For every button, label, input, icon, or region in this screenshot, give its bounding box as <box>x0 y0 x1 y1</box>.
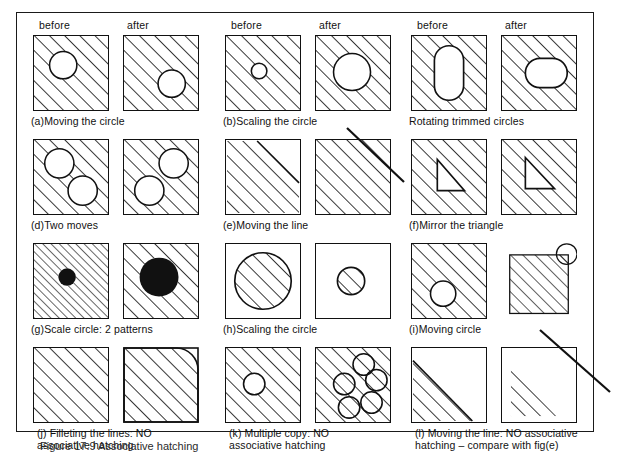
panel-column-0: before after (a)Movin <box>23 13 215 431</box>
panel-e: (e)Moving the line <box>215 139 407 215</box>
panel-column-1: before after (b)Scali <box>215 13 407 431</box>
panel-g-label: (g)Scale circle: 2 patterns <box>31 323 153 335</box>
panel-f-after <box>501 139 577 215</box>
panel-k-after <box>315 347 391 423</box>
header-before: before <box>39 19 70 31</box>
panel-b-label: (b)Scaling the circle <box>223 115 317 127</box>
panel-l-after <box>501 347 577 423</box>
panel-c: Rotating trimmed circles <box>401 35 593 111</box>
panel-c-label: Rotating trimmed circles <box>409 115 524 127</box>
panel-i: (i)Moving circle <box>401 243 593 319</box>
panel-d-after <box>123 139 199 215</box>
panel-k-before <box>225 347 301 423</box>
panel-e-label: (e)Moving the line <box>223 219 308 231</box>
panel-b-after <box>315 35 391 111</box>
figure-plate: before after (a)Movin <box>16 12 594 432</box>
panel-h-after <box>315 243 391 319</box>
panel-b: (b)Scaling the circle <box>215 35 407 111</box>
header-before: before <box>417 19 448 31</box>
panel-column-2: before after <box>401 13 593 431</box>
panel-j: (j) Filleting the lines: NO associative … <box>23 347 215 423</box>
panel-a-before <box>33 35 109 111</box>
panel-g: (g)Scale circle: 2 patterns <box>23 243 215 319</box>
panel-f: (f)Mirror the triangle <box>401 139 593 215</box>
column-headers-2: before after <box>401 19 593 35</box>
panel-a-after <box>123 35 199 111</box>
panel-g-before <box>33 243 109 319</box>
panel-h: (h)Scaling the circle <box>215 243 407 319</box>
panel-d-label: (d)Two moves <box>31 219 98 231</box>
column-headers-0: before after <box>23 19 215 35</box>
panel-k: (k) Multiple copy: NO associative hatchi… <box>215 347 407 423</box>
panel-a: (a)Moving the circle <box>23 35 215 111</box>
panel-e-before <box>225 139 301 215</box>
panel-c-after <box>501 35 577 111</box>
panel-g-after <box>123 243 199 319</box>
panel-h-label: (h)Scaling the circle <box>223 323 317 335</box>
panel-b-before <box>225 35 301 111</box>
figure-root: before after (a)Movin <box>0 0 626 459</box>
panel-j-before <box>33 347 109 423</box>
panel-l: (l) Moving the line: NO associative hatc… <box>401 347 593 423</box>
panel-h-before <box>225 243 301 319</box>
panel-d: (d)Two moves <box>23 139 215 215</box>
figure-caption: Figure 17.9 Associative hatching <box>40 440 440 459</box>
panel-e-after <box>315 139 391 215</box>
panel-f-label: (f)Mirror the triangle <box>409 219 503 231</box>
panel-a-label: (a)Moving the circle <box>31 115 125 127</box>
panel-f-before <box>411 139 487 215</box>
panel-l-before <box>411 347 487 423</box>
header-after: after <box>505 19 527 31</box>
header-after: after <box>127 19 149 31</box>
panel-i-after <box>501 243 577 319</box>
panel-c-before <box>411 35 487 111</box>
panel-j-after <box>123 347 199 423</box>
panel-i-label: (i)Moving circle <box>409 323 481 335</box>
header-before: before <box>231 19 262 31</box>
header-after: after <box>319 19 341 31</box>
column-headers-1: before after <box>215 19 407 35</box>
panel-i-before <box>411 243 487 319</box>
panel-d-before <box>33 139 109 215</box>
